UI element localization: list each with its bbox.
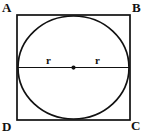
radius-label-right: r bbox=[95, 55, 100, 66]
vertex-label-d: D bbox=[2, 120, 11, 133]
geometry-figure: A B C D r r bbox=[0, 0, 147, 137]
vertex-label-c: C bbox=[131, 119, 140, 132]
vertex-label-b: B bbox=[132, 1, 141, 14]
radius-label-left: r bbox=[46, 55, 51, 66]
vertex-label-a: A bbox=[2, 1, 11, 14]
geometry-canvas bbox=[0, 0, 147, 137]
center-point-dot bbox=[71, 66, 75, 70]
